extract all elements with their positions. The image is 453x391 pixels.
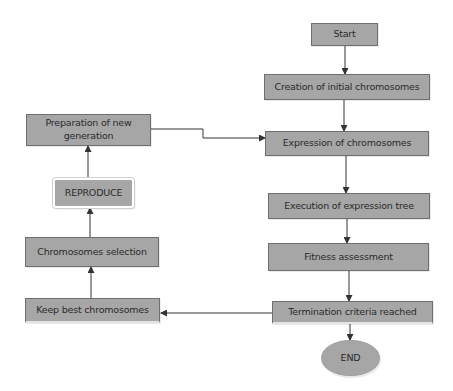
- node-label: Creation of initial chromosomes: [275, 81, 420, 94]
- node-start: Start: [311, 23, 378, 46]
- node-creation: Creation of initial chromosomes: [264, 74, 430, 100]
- node-execution: Execution of expression tree: [268, 193, 430, 219]
- node-label: Execution of expression tree: [284, 200, 414, 213]
- edge-preparation-expression: [151, 129, 265, 138]
- node-label: Preparation of new generation: [41, 117, 136, 143]
- node-label: Expression of chromosomes: [283, 137, 411, 150]
- node-selection: Chromosomes selection: [25, 237, 159, 267]
- node-label: Termination criteria reached: [288, 306, 416, 319]
- node-label: END: [341, 352, 361, 365]
- node-reproduce: REPRODUCE: [53, 178, 134, 208]
- node-label: Fitness assessment: [304, 251, 393, 264]
- flowchart-canvas: Start Creation of initial chromosomes Ex…: [0, 0, 453, 391]
- node-label: Start: [333, 28, 355, 41]
- node-preparation: Preparation of new generation: [26, 114, 151, 146]
- node-label: Chromosomes selection: [37, 246, 147, 259]
- node-label: Keep best chromosomes: [36, 304, 149, 317]
- node-termination: Termination criteria reached: [272, 301, 433, 324]
- node-end: END: [321, 340, 380, 376]
- node-keep-best: Keep best chromosomes: [25, 298, 160, 323]
- node-fitness: Fitness assessment: [268, 243, 429, 271]
- node-label: REPRODUCE: [65, 187, 123, 200]
- node-expression: Expression of chromosomes: [265, 131, 429, 156]
